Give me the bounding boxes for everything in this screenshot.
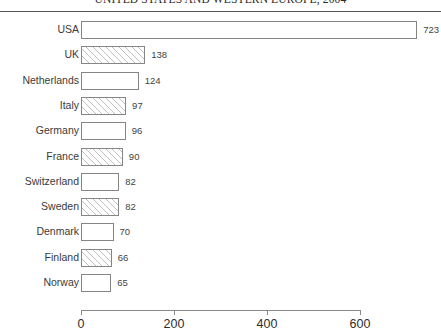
- x-axis-tick-label-600: 600: [350, 317, 371, 331]
- bar-italy[interactable]: [81, 97, 126, 115]
- bar-row: Netherlands124: [0, 72, 441, 91]
- value-label-italy: 97: [132, 100, 143, 111]
- category-label-italy: Italy: [60, 99, 79, 111]
- x-axis-tick-400: [267, 310, 268, 315]
- bar-row: Norway65: [0, 274, 441, 293]
- chart-title: UNITED STATES AND WESTERN EUROPE, 2004: [0, 0, 441, 5]
- category-label-netherlands: Netherlands: [22, 74, 79, 86]
- category-label-denmark: Denmark: [36, 225, 79, 237]
- category-label-switzerland: Switzerland: [25, 175, 79, 187]
- bar-netherlands[interactable]: [81, 72, 139, 90]
- bar-sweden[interactable]: [81, 198, 119, 216]
- bar-row: USA723: [0, 21, 441, 40]
- bar-switzerland[interactable]: [81, 173, 119, 191]
- bar-france[interactable]: [81, 148, 123, 166]
- bar-row: Denmark70: [0, 223, 441, 242]
- category-label-sweden: Sweden: [41, 200, 79, 212]
- bar-row: Sweden82: [0, 198, 441, 217]
- category-label-finland: Finland: [45, 251, 79, 263]
- category-label-france: France: [46, 150, 79, 162]
- value-label-sweden: 82: [125, 201, 136, 212]
- bar-row: Germany96: [0, 122, 441, 141]
- category-label-norway: Norway: [43, 276, 79, 288]
- value-label-switzerland: 82: [125, 176, 136, 187]
- category-label-usa: USA: [57, 23, 79, 35]
- bar-finland[interactable]: [81, 249, 112, 267]
- bar-denmark[interactable]: [81, 223, 114, 241]
- x-axis-tick-200: [174, 310, 175, 315]
- value-label-denmark: 70: [120, 226, 131, 237]
- x-axis-line: [81, 310, 361, 311]
- x-axis: 0200400600: [0, 303, 441, 334]
- bar-row: Switzerland82: [0, 173, 441, 192]
- value-label-uk: 138: [151, 49, 167, 60]
- value-label-norway: 65: [117, 277, 128, 288]
- x-axis-tick-label-400: 400: [257, 317, 278, 331]
- value-label-finland: 66: [118, 252, 129, 263]
- bar-usa[interactable]: [81, 21, 417, 39]
- category-label-germany: Germany: [36, 124, 79, 136]
- value-label-germany: 96: [132, 125, 143, 136]
- x-axis-tick-label-200: 200: [164, 317, 185, 331]
- plot-area: USA723UK138Netherlands124Italy97Germany9…: [0, 21, 441, 301]
- bar-germany[interactable]: [81, 122, 126, 140]
- bar-row: Finland66: [0, 249, 441, 268]
- x-axis-tick-label-0: 0: [78, 317, 85, 331]
- value-label-netherlands: 124: [145, 75, 161, 86]
- x-axis-tick-600: [360, 310, 361, 315]
- category-label-uk: UK: [64, 48, 79, 60]
- bar-norway[interactable]: [81, 274, 111, 292]
- title-divider: [0, 11, 441, 12]
- bar-row: France90: [0, 148, 441, 167]
- x-axis-tick-0: [81, 310, 82, 315]
- value-label-france: 90: [129, 151, 140, 162]
- bar-row: Italy97: [0, 97, 441, 116]
- value-label-usa: 723: [423, 24, 439, 35]
- bar-row: UK138: [0, 46, 441, 65]
- bar-uk[interactable]: [81, 46, 145, 64]
